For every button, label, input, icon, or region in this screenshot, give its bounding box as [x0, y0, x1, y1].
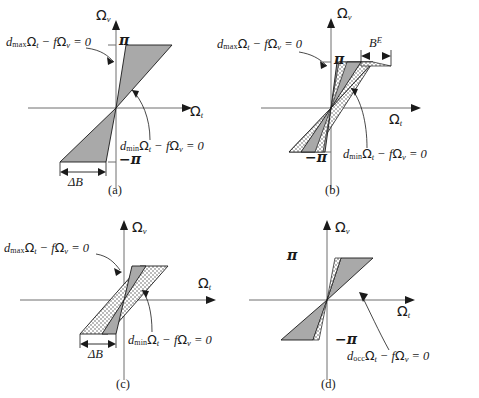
- caption-c: (c): [116, 378, 130, 391]
- dimension-label-be-b: BE: [369, 36, 382, 50]
- pointer-dmax-a: [86, 48, 114, 65]
- axis-label-vertical-b: Ωv: [337, 6, 351, 21]
- axis-label-vertical-c: Ωv: [132, 220, 146, 235]
- pointer-dmin-a: [132, 90, 150, 140]
- dimension-label-delta-b-a: ΔB: [68, 176, 83, 189]
- equation-dmin-a: dminΩt − fΩv = 0: [120, 140, 204, 153]
- equation-dmax-a: dmaxΩt − fΩv = 0: [6, 36, 91, 49]
- caption-d: (d): [321, 378, 336, 391]
- panel-c: Ωv Ωt dmaxΩt − fΩv = 0 dminΩt − fΩv = 0 …: [0, 198, 250, 398]
- axis-label-horizontal-b: Ωt: [389, 112, 402, 127]
- axis-label-vertical-a: Ωv: [96, 8, 110, 23]
- equation-docc-d: doccΩt − fΩv = 0: [347, 350, 429, 363]
- panel-b-graphic: [239, 0, 479, 200]
- equation-dmax-b: dmaxΩt − fΩv = 0: [217, 38, 302, 51]
- axis-label-vertical-d: Ωv: [335, 220, 349, 235]
- tick-neg-pi-d: −π: [335, 332, 357, 346]
- panel-d-graphic: [249, 198, 479, 398]
- equation-dmin-c: dminΩt − fΩv = 0: [128, 334, 212, 347]
- tick-neg-pi-b: −π: [305, 150, 327, 164]
- pointer-docc-d: [359, 292, 389, 350]
- panel-b: Ωv Ωt π −π dmaxΩt − fΩv = 0 dminΩt − fΩv…: [239, 0, 479, 200]
- equation-dmin-b: dminΩt − fΩv = 0: [343, 148, 427, 161]
- equation-dmax-c: dmaxΩt − fΩv = 0: [4, 242, 89, 255]
- panel-a: Ωv Ωt π −π dmaxΩt − fΩv = 0 dminΩt − fΩv…: [0, 0, 240, 200]
- panel-c-graphic: [0, 198, 250, 398]
- pointer-dmin-b: [351, 88, 367, 148]
- tick-pi-d: π: [287, 248, 297, 262]
- tick-pi-a: π: [119, 33, 129, 47]
- tick-neg-pi-a: −π: [119, 152, 141, 166]
- dimension-delta-b-a: [60, 162, 106, 176]
- caption-a: (a): [108, 184, 122, 197]
- tick-pi-b: π: [334, 52, 344, 66]
- axis-label-horizontal-c: Ωt: [198, 276, 211, 291]
- panel-d: Ωv Ωt π −π doccΩt − fΩv = 0 (d): [249, 198, 479, 398]
- axis-label-horizontal-a: Ωt: [190, 104, 203, 119]
- pointer-dmax-b: [299, 52, 327, 69]
- axis-label-horizontal-d: Ωt: [397, 304, 410, 319]
- figure-root: Ωv Ωt π −π dmaxΩt − fΩv = 0 dminΩt − fΩv…: [0, 0, 479, 398]
- pointer-dmax-c: [96, 254, 122, 276]
- pointer-dmin-c: [142, 290, 152, 332]
- dimension-label-delta-b-c: ΔB: [88, 348, 103, 361]
- dimension-delta-b-c: [80, 334, 116, 348]
- caption-b: (b): [325, 184, 340, 197]
- panel-a-graphic: [0, 0, 240, 200]
- band-extension-b: [361, 62, 391, 66]
